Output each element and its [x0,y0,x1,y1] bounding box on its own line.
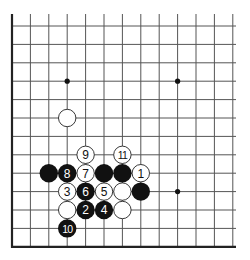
move-number-label: 4 [101,203,108,217]
white-stone-7: 7 [77,165,94,182]
move-number-label: 7 [82,167,89,181]
move-number-label: 5 [101,185,108,199]
move-number-label: 1 [137,167,144,181]
stone-body [114,183,131,200]
black-stone [132,182,150,200]
black-stone-10: 10 [58,219,76,237]
board-background [0,0,250,260]
move-number-label: 10 [62,223,73,235]
white-stone-11: 11 [114,146,131,163]
white-stone [114,183,131,200]
move-number-label: 9 [82,148,89,162]
move-number-label: 11 [118,149,128,161]
black-stone-4: 4 [95,201,113,219]
move-number-label: 6 [82,185,89,199]
stone-body [40,164,58,182]
white-stone [114,201,131,218]
stone-body [95,164,113,182]
white-stone-3: 3 [58,183,75,200]
white-stone-9: 9 [77,146,94,163]
white-stone [58,201,75,218]
white-stone-1: 1 [132,165,149,182]
star-point [175,79,180,84]
go-board: 9118713652410 [0,0,250,260]
white-stone [58,109,75,126]
black-stone-2: 2 [76,201,94,219]
stone-body [132,182,150,200]
black-stone [40,164,58,182]
black-stone [113,164,131,182]
go-board-diagram: 9118713652410 [0,0,250,260]
stone-body [114,201,131,218]
black-stone-8: 8 [58,164,76,182]
move-number-label: 8 [64,167,71,181]
black-stone [95,164,113,182]
white-stone-5: 5 [95,183,112,200]
move-number-label: 2 [82,203,89,217]
black-stone-6: 6 [76,182,94,200]
stone-body [58,201,75,218]
star-point [65,79,70,84]
stone-body [113,164,131,182]
star-point [175,189,180,194]
stone-body [58,109,75,126]
move-number-label: 3 [64,185,71,199]
